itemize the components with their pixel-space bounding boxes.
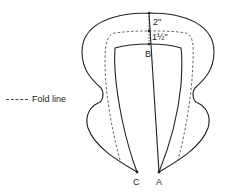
point-c [136,171,139,174]
point-a-label: A [156,178,162,187]
dashed-line-swatch [6,99,28,100]
point-c-label: C [133,178,140,187]
legend: Fold line [6,94,66,104]
measurement-1-5in: 1½" [152,33,168,42]
point-b-label: B [145,50,151,59]
outer-cut-line [82,13,214,172]
legend-fold-line-label: Fold line [32,94,66,104]
point-a [158,171,161,174]
inner-cut-line [115,44,182,172]
measurement-2in: 2" [153,18,161,27]
